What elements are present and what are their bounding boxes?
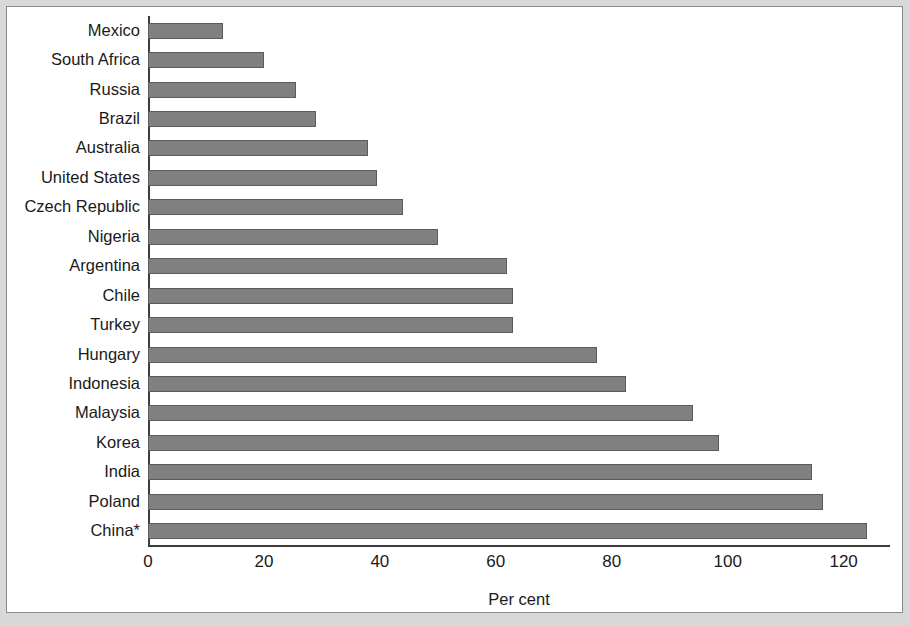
bar-series: MexicoSouth AfricaRussiaBrazilAustraliaU… <box>148 16 890 546</box>
category-label: Argentina <box>69 257 140 273</box>
bar <box>148 170 377 186</box>
bar-row: Argentina <box>148 252 890 281</box>
category-label: India <box>104 463 140 479</box>
bar-row: United States <box>148 163 890 192</box>
bar <box>148 464 812 480</box>
x-tick-label: 40 <box>370 552 389 572</box>
x-tick-label: 100 <box>714 552 742 572</box>
bar-row: China* <box>148 517 890 546</box>
x-tick-label: 80 <box>602 552 621 572</box>
bar <box>148 405 693 421</box>
bar-row: Nigeria <box>148 222 890 251</box>
bar <box>148 111 316 127</box>
bar <box>148 317 513 333</box>
bar-row: India <box>148 458 890 487</box>
bar-row: Australia <box>148 134 890 163</box>
category-label: Nigeria <box>88 228 140 244</box>
category-label: Chile <box>102 287 140 303</box>
category-label: Russia <box>90 81 140 97</box>
bar <box>148 140 368 156</box>
bar <box>148 229 438 245</box>
category-label: Malaysia <box>75 404 140 420</box>
bar <box>148 435 719 451</box>
bar-row: Mexico <box>148 16 890 45</box>
x-tick-label: 20 <box>254 552 273 572</box>
bar <box>148 347 597 363</box>
category-label: Mexico <box>88 22 140 38</box>
bar-row: Czech Republic <box>148 193 890 222</box>
x-tick-label: 60 <box>486 552 505 572</box>
x-axis-title: Per cent <box>148 590 890 609</box>
x-tick-label: 0 <box>143 552 152 572</box>
bar-row: Poland <box>148 487 890 516</box>
bar <box>148 82 296 98</box>
bar <box>148 23 223 39</box>
bar-row: Brazil <box>148 104 890 133</box>
bar-row: South Africa <box>148 45 890 74</box>
category-label: South Africa <box>51 51 140 67</box>
category-label: Indonesia <box>68 375 140 391</box>
bar <box>148 199 403 215</box>
bar <box>148 494 823 510</box>
category-label: Hungary <box>78 346 140 362</box>
category-label: Turkey <box>90 316 140 332</box>
bar <box>148 288 513 304</box>
bar-row: Korea <box>148 428 890 457</box>
bar <box>148 523 867 539</box>
x-tick-label: 120 <box>829 552 857 572</box>
chart-figure: MexicoSouth AfricaRussiaBrazilAustraliaU… <box>0 0 909 626</box>
bar-row: Chile <box>148 281 890 310</box>
bar-row: Hungary <box>148 340 890 369</box>
category-label: Brazil <box>99 110 140 126</box>
x-axis-tick-labels: 020406080100120 <box>148 552 890 576</box>
category-label: Korea <box>96 434 140 450</box>
bar-row: Russia <box>148 75 890 104</box>
category-label: United States <box>41 169 140 185</box>
plot-area: MexicoSouth AfricaRussiaBrazilAustraliaU… <box>148 16 890 546</box>
bar-row: Malaysia <box>148 399 890 428</box>
bar <box>148 52 264 68</box>
category-label: China* <box>90 522 140 538</box>
bar <box>148 376 626 392</box>
category-label: Poland <box>89 493 140 509</box>
category-label: Australia <box>76 139 140 155</box>
bar-row: Turkey <box>148 310 890 339</box>
category-label: Czech Republic <box>24 198 140 214</box>
bar <box>148 258 507 274</box>
bar-row: Indonesia <box>148 369 890 398</box>
